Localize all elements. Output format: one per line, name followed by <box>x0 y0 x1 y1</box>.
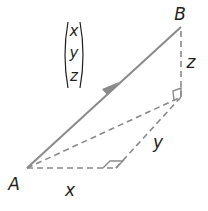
right-paren <box>80 22 83 88</box>
edge-z-label: z <box>186 52 197 72</box>
edge-y-label: y <box>152 132 164 152</box>
component-z: z <box>69 67 79 85</box>
edge-x-label: x <box>64 180 76 200</box>
edge-y <box>116 97 181 168</box>
point-b-label: B <box>174 4 186 24</box>
left-paren <box>65 22 68 88</box>
component-y: y <box>69 44 80 62</box>
component-x: x <box>69 22 79 40</box>
point-a-label: A <box>7 174 20 194</box>
vector-diagram: x y z B A z y x <box>0 0 208 211</box>
right-angle-marker-bottom <box>103 161 123 168</box>
